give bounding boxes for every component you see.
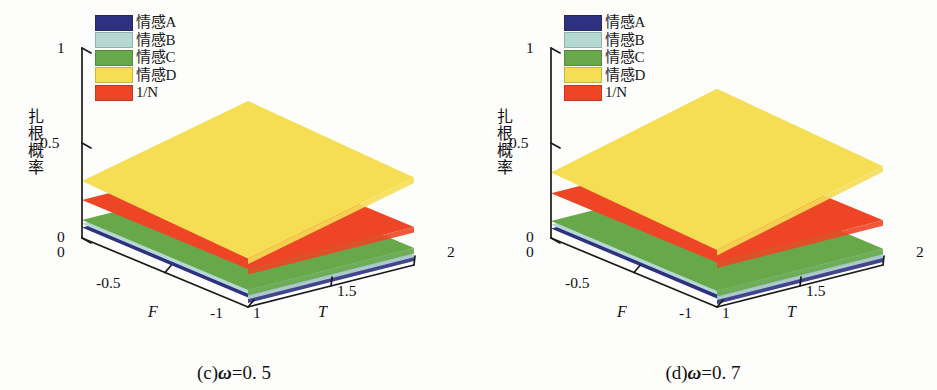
legend-item: 情感C (564, 49, 645, 67)
legend-item: 情感B (95, 32, 176, 50)
axis-line (414, 256, 415, 265)
caption-panel-d: (d)ω=0. 7 (469, 362, 937, 384)
y-tick-1-c: -1 (210, 304, 223, 322)
legend-label-emotion-d: 情感D (605, 68, 645, 83)
legend-swatch-emotion-a (95, 15, 133, 31)
caption-prefix-c: (c) (197, 362, 218, 383)
legend-item: 情感D (564, 67, 645, 85)
legend-swatch-emotion-c (95, 50, 133, 66)
legend-label-one-over-n: 1/N (136, 85, 158, 100)
legend-item: 情感B (564, 32, 645, 50)
caption-omega-c: ω (218, 362, 232, 383)
caption-prefix-d: (d) (665, 362, 687, 383)
y-axis-title-c: F (148, 303, 158, 321)
legend-panel-c: 情感A 情感B 情感C 情感D 1/N (95, 14, 176, 102)
axis-line (82, 143, 91, 148)
y-tick-0-c: 0 (57, 243, 65, 261)
chart-panel-d: 情感A 情感B 情感C 情感D 1/N 扎根概率 1 0.5 0 0 -0. (469, 0, 937, 390)
caption-value-d: =0. 7 (701, 362, 740, 383)
legend-swatch-emotion-a (564, 15, 602, 31)
y-tick-1-d: -1 (679, 304, 692, 322)
x-tick-1-c: 1 (253, 304, 261, 322)
legend-swatch-one-over-n (564, 85, 602, 101)
figure-root: 情感A 情感B 情感C 情感D 1/N 扎根概率 1 0.5 0 0 -0. (0, 0, 937, 390)
legend-label-emotion-d: 情感D (136, 68, 176, 83)
x-tick-15-c: 1.5 (337, 282, 356, 300)
x-tick-2-c: 2 (447, 243, 455, 261)
legend-item: 1/N (564, 84, 645, 102)
axis-line (82, 48, 91, 53)
axis-line (331, 277, 332, 286)
legend-swatch-emotion-b (564, 32, 602, 48)
z-tick-05-c: 0.5 (40, 134, 59, 152)
legend-item: 情感A (564, 14, 645, 32)
y-tick-0-d: 0 (526, 243, 534, 261)
z-tick-1-d: 1 (526, 39, 534, 57)
axis-line (551, 143, 560, 148)
legend-label-emotion-c: 情感C (605, 50, 644, 65)
y-axis-title-d: F (617, 303, 627, 321)
z-tick-1-c: 1 (57, 39, 65, 57)
legend-swatch-emotion-b (95, 32, 133, 48)
x-axis-title-c: T (318, 303, 327, 321)
axis-line (800, 277, 801, 286)
legend-item: 情感C (95, 49, 176, 67)
legend-panel-d: 情感A 情感B 情感C 情感D 1/N (564, 14, 645, 102)
axis-line (634, 266, 640, 273)
legend-swatch-one-over-n (95, 85, 133, 101)
x-tick-2-d: 2 (916, 243, 924, 261)
legend-item: 情感A (95, 14, 176, 32)
y-tick-05-d: -0.5 (565, 274, 590, 292)
y-tick-05-c: -0.5 (96, 274, 121, 292)
chart-panel-c: 情感A 情感B 情感C 情感D 1/N 扎根概率 1 0.5 0 0 -0. (0, 0, 468, 390)
caption-panel-c: (c)ω=0. 5 (0, 362, 468, 384)
legend-label-one-over-n: 1/N (605, 85, 627, 100)
legend-label-emotion-a: 情感A (136, 15, 176, 30)
caption-value-c: =0. 5 (232, 362, 271, 383)
legend-swatch-emotion-d (564, 67, 602, 83)
legend-label-emotion-b: 情感B (605, 33, 644, 48)
legend-label-emotion-c: 情感C (136, 50, 175, 65)
surface-plot-c (0, 0, 468, 352)
legend-item: 1/N (95, 84, 176, 102)
legend-label-emotion-b: 情感B (136, 33, 175, 48)
legend-label-emotion-a: 情感A (605, 15, 645, 30)
x-axis-title-d: T (787, 303, 796, 321)
x-tick-15-d: 1.5 (806, 282, 825, 300)
z-tick-05-d: 0.5 (509, 134, 528, 152)
axis-line (165, 266, 171, 273)
caption-omega-d: ω (688, 362, 702, 383)
axis-line (883, 256, 884, 265)
x-tick-1-d: 1 (722, 304, 730, 322)
legend-swatch-emotion-c (564, 50, 602, 66)
axis-line (551, 48, 560, 53)
surface-plot-d (469, 0, 937, 352)
legend-swatch-emotion-d (95, 67, 133, 83)
legend-item: 情感D (95, 67, 176, 85)
